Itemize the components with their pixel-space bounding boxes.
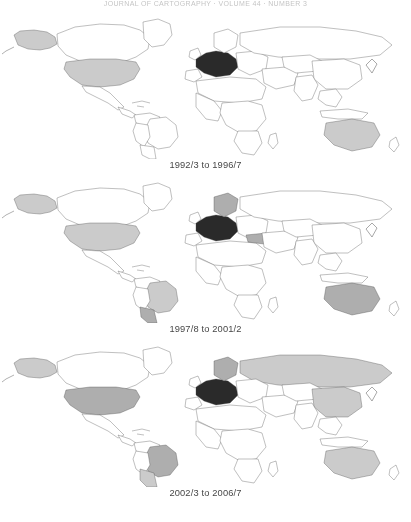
map-panel-1: 1992/3 to 1996/7 <box>0 7 411 171</box>
region-china <box>312 387 362 417</box>
region-central-africa <box>220 101 266 133</box>
region-mexico <box>82 414 124 438</box>
region-india <box>294 75 318 101</box>
region-central-america <box>118 271 136 282</box>
region-australia <box>324 119 380 151</box>
region-russia <box>240 355 392 387</box>
region-aleutians <box>2 47 14 54</box>
region-alaska <box>14 358 57 378</box>
region-western-europe <box>196 51 238 77</box>
region-western-europe <box>196 215 238 241</box>
region-indonesia <box>320 437 368 447</box>
region-central-america <box>118 107 136 118</box>
map-svg-1 <box>0 7 411 159</box>
region-alaska <box>14 194 57 214</box>
region-central-africa <box>220 265 266 297</box>
map-svg-3 <box>0 335 411 487</box>
panel-2-caption: 1997/8 to 2001/2 <box>0 323 411 335</box>
region-new-zealand <box>389 301 399 316</box>
region-iberia <box>185 397 202 410</box>
region-caribbean <box>132 265 150 271</box>
region-caribbean <box>132 101 150 107</box>
region-indonesia <box>320 273 368 283</box>
region-madagascar <box>268 461 278 477</box>
region-southeast-asia <box>318 253 342 271</box>
world-map-figure: JOURNAL OF CARTOGRAPHY · VOLUME 44 · NUM… <box>0 0 411 522</box>
region-scandinavia <box>214 193 238 217</box>
region-central-africa <box>220 429 266 461</box>
region-india <box>294 239 318 265</box>
region-aleutians <box>2 375 14 382</box>
region-mexico <box>82 86 124 110</box>
region-scandinavia <box>214 357 238 381</box>
running-header: JOURNAL OF CARTOGRAPHY · VOLUME 44 · NUM… <box>0 0 411 7</box>
map-1-landmasses <box>2 19 399 159</box>
region-russia <box>240 27 392 59</box>
map-panel-2: 1997/8 to 2001/2 <box>0 171 411 335</box>
region-canada <box>57 24 150 64</box>
panel-1-caption: 1992/3 to 1996/7 <box>0 159 411 171</box>
region-iberia <box>185 233 202 246</box>
map-svg-2 <box>0 171 411 323</box>
region-southern-africa <box>234 131 262 155</box>
region-japan <box>366 387 377 401</box>
region-southern-africa <box>234 295 262 319</box>
region-united-states <box>64 387 140 415</box>
region-southern-africa <box>234 459 262 483</box>
region-southeast-asia <box>318 89 342 107</box>
region-aleutians <box>2 211 14 218</box>
region-china <box>312 59 362 89</box>
world-map-1 <box>0 7 411 159</box>
map-panel-3: 2002/3 to 2006/7 <box>0 335 411 499</box>
region-united-states <box>64 59 140 87</box>
region-china <box>312 223 362 253</box>
region-iberia <box>185 69 202 82</box>
region-indonesia <box>320 109 368 119</box>
region-madagascar <box>268 133 278 149</box>
region-argentina <box>140 145 156 159</box>
region-southeast-asia <box>318 417 342 435</box>
region-new-zealand <box>389 137 399 152</box>
bottom-note <box>0 513 411 521</box>
region-australia <box>324 283 380 315</box>
panel-3-caption: 2002/3 to 2006/7 <box>0 487 411 499</box>
region-madagascar <box>268 297 278 313</box>
region-canada <box>57 188 150 228</box>
region-peru-bolivia <box>133 123 150 147</box>
map-2-landmasses <box>2 183 399 323</box>
region-india <box>294 403 318 429</box>
region-mexico <box>82 250 124 274</box>
region-scandinavia <box>214 29 238 53</box>
map-3-landmasses <box>2 347 399 487</box>
region-russia <box>240 191 392 223</box>
region-caribbean <box>132 429 150 435</box>
region-western-europe <box>196 379 238 405</box>
region-japan <box>366 223 377 237</box>
region-alaska <box>14 30 57 50</box>
region-australia <box>324 447 380 479</box>
region-canada <box>57 352 150 392</box>
world-map-3 <box>0 335 411 487</box>
region-japan <box>366 59 377 73</box>
world-map-2 <box>0 171 411 323</box>
region-central-america <box>118 435 136 446</box>
region-new-zealand <box>389 465 399 480</box>
region-united-states <box>64 223 140 251</box>
